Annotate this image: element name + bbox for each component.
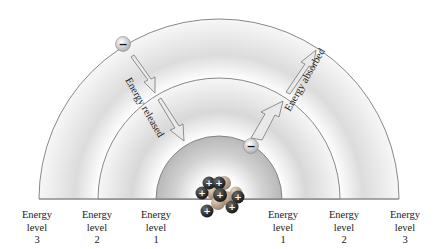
energy-level-diagram: Energy released Energy absorbed − −: [0, 0, 438, 249]
label-right-level-1: Energylevel1: [258, 209, 308, 247]
electron-outer: −: [116, 37, 131, 52]
svg-text:+: +: [216, 190, 224, 200]
svg-text:+: +: [215, 178, 223, 188]
svg-text:+: +: [234, 192, 242, 202]
svg-text:−: −: [118, 38, 127, 51]
label-left-level-2: Energylevel2: [72, 209, 122, 247]
svg-text:+: +: [228, 202, 236, 212]
svg-text:+: +: [203, 206, 211, 216]
svg-text:+: +: [205, 178, 213, 188]
svg-text:+: +: [198, 188, 206, 198]
diagram-canvas: Energy released Energy absorbed − −: [0, 0, 438, 249]
label-left-level-1: Energylevel1: [131, 209, 181, 247]
label-right-level-2: Energylevel2: [319, 209, 369, 247]
electron-inner: −: [244, 139, 259, 154]
label-right-level-3: Energylevel3: [380, 209, 430, 247]
svg-text:−: −: [246, 140, 255, 153]
label-left-level-3: Energylevel3: [12, 209, 62, 247]
